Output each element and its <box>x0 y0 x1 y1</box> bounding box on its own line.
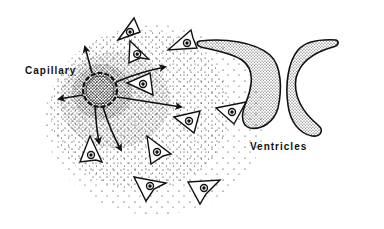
right-ventricle <box>287 40 338 136</box>
capillary-label: Capillary <box>25 65 76 76</box>
ventricles-label: Ventricles <box>250 141 307 152</box>
diagram-canvas <box>0 0 384 229</box>
capillary <box>83 73 117 107</box>
